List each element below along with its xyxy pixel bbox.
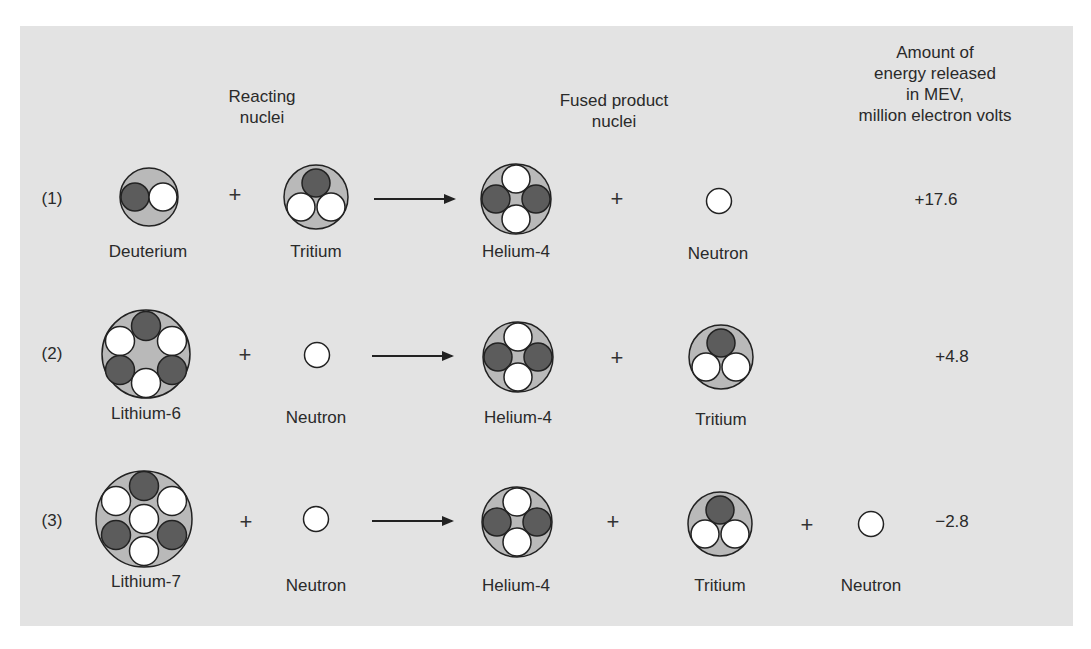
header-energy-released: Amount of energy released in MEV, millio… bbox=[858, 42, 1011, 126]
product-label: Tritium bbox=[695, 410, 746, 430]
reactant-label: Neutron bbox=[286, 576, 346, 596]
helium-4-nucleus-icon bbox=[481, 320, 555, 394]
header-reacting-nuclei: Reacting nuclei bbox=[228, 86, 295, 128]
tritium-nucleus-icon bbox=[687, 323, 755, 391]
helium-4-nucleus-icon bbox=[479, 162, 553, 236]
reaction-arrow-icon bbox=[372, 520, 452, 522]
reactant-label: Lithium-6 bbox=[111, 404, 181, 424]
reaction-number: (2) bbox=[42, 344, 63, 364]
product-label: Neutron bbox=[841, 576, 901, 596]
energy-value: +17.6 bbox=[914, 190, 957, 210]
helium-4-nucleus-icon bbox=[480, 485, 554, 559]
header-line: Reacting bbox=[228, 86, 295, 107]
energy-value: +4.8 bbox=[935, 347, 969, 367]
header-fused-product-nuclei: Fused product nuclei bbox=[560, 90, 669, 132]
plus-sign: + bbox=[240, 509, 253, 535]
plus-sign: + bbox=[611, 186, 624, 212]
reaction-arrow-icon bbox=[372, 355, 452, 357]
reaction-number: (1) bbox=[42, 189, 63, 209]
neutron-icon bbox=[303, 341, 331, 369]
lithium-6-nucleus-icon bbox=[100, 308, 192, 400]
reactant-label: Tritium bbox=[290, 242, 341, 262]
product-label: Neutron bbox=[688, 244, 748, 264]
header-line: nuclei bbox=[560, 111, 669, 132]
reaction-arrow-icon bbox=[374, 198, 454, 200]
reaction-number: (3) bbox=[42, 511, 63, 531]
header-line: in MEV, bbox=[858, 84, 1011, 105]
plus-sign: + bbox=[801, 512, 814, 538]
plus-sign: + bbox=[229, 182, 242, 208]
product-label: Helium-4 bbox=[482, 576, 550, 596]
product-label: Tritium bbox=[694, 576, 745, 596]
reactant-label: Neutron bbox=[286, 408, 346, 428]
header-line: energy released bbox=[858, 63, 1011, 84]
tritium-nucleus-icon bbox=[686, 490, 754, 558]
plus-sign: + bbox=[607, 509, 620, 535]
header-line: million electron volts bbox=[858, 105, 1011, 126]
neutron-icon bbox=[857, 510, 885, 538]
product-label: Helium-4 bbox=[482, 242, 550, 262]
plus-sign: + bbox=[611, 345, 624, 371]
product-label: Helium-4 bbox=[484, 408, 552, 428]
neutron-icon bbox=[302, 505, 330, 533]
lithium-7-nucleus-icon bbox=[94, 469, 194, 569]
header-line: Amount of bbox=[858, 42, 1011, 63]
deuterium-nucleus-icon bbox=[118, 166, 180, 228]
reactant-label: Lithium-7 bbox=[111, 572, 181, 592]
header-line: Fused product bbox=[560, 90, 669, 111]
energy-value: −2.8 bbox=[935, 512, 969, 532]
neutron-icon bbox=[705, 187, 733, 215]
tritium-nucleus-icon bbox=[282, 163, 350, 231]
header-line: nuclei bbox=[228, 107, 295, 128]
plus-sign: + bbox=[239, 342, 252, 368]
reactant-label: Deuterium bbox=[109, 242, 187, 262]
